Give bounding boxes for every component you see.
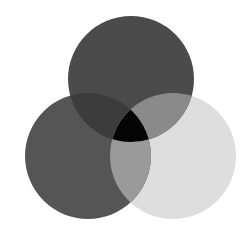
venn-diagram: [0, 0, 249, 232]
